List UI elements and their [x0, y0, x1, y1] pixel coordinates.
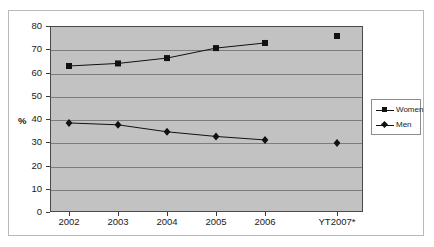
square-marker-icon [382, 107, 387, 112]
x-tick-mark [167, 212, 168, 216]
gridline [51, 97, 362, 98]
gridline [51, 190, 362, 191]
gridline [51, 74, 362, 75]
x-tick-mark [118, 212, 119, 216]
y-tick-mark [46, 49, 50, 50]
chart-container: 01020304050607080 20022003200420052006YT… [0, 0, 434, 247]
y-tick-mark [46, 96, 50, 97]
y-tick-mark [46, 166, 50, 167]
x-tick-mark [265, 212, 266, 216]
y-tick-mark [46, 142, 50, 143]
gridline [51, 143, 362, 144]
legend-item-women: Women [374, 104, 420, 116]
y-axis-label: % [18, 115, 26, 126]
x-tick-mark [69, 212, 70, 216]
y-tick-label: 70 [10, 44, 42, 53]
gridline [51, 167, 362, 168]
plot-area [50, 26, 363, 212]
y-tick-label: 80 [10, 21, 42, 30]
x-tick-label: YT2007* [302, 216, 372, 227]
y-tick-mark [46, 73, 50, 74]
y-tick-label: 20 [10, 161, 42, 170]
y-tick-mark [46, 26, 50, 27]
y-tick-label: 60 [10, 68, 42, 77]
gridline [51, 120, 362, 121]
y-tick-mark [46, 212, 50, 213]
gridline [51, 50, 362, 51]
y-tick-label: 10 [10, 184, 42, 193]
y-tick-label: 50 [10, 91, 42, 100]
legend-item-men: Men [374, 119, 420, 131]
diamond-marker-icon [381, 121, 388, 128]
y-tick-label: 30 [10, 137, 42, 146]
x-tick-mark [216, 212, 217, 216]
chart-legend: Women Men [371, 99, 421, 135]
x-tick-label: 2006 [230, 216, 300, 227]
y-tick-label: 0 [10, 207, 42, 216]
y-tick-mark [46, 189, 50, 190]
legend-label-men: Men [396, 120, 412, 130]
x-tick-mark [337, 212, 338, 216]
y-tick-mark [46, 119, 50, 120]
legend-label-women: Women [396, 105, 423, 115]
